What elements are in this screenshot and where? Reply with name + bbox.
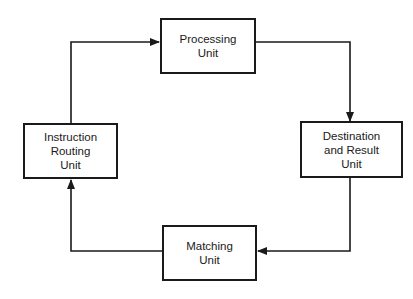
node-label-line: Routing (44, 144, 97, 158)
node-destination-and-result-unit: Destination and Result Unit (300, 121, 403, 178)
node-label-line: Unit (323, 157, 381, 171)
node-label-line: Processing (180, 32, 237, 46)
node-label-line: and Result (323, 143, 381, 157)
node-processing-unit: Processing Unit (160, 18, 256, 74)
edge-instruction-to-processing (71, 42, 159, 123)
node-label-line: Unit (44, 158, 97, 172)
node-label-line: Matching (186, 239, 233, 253)
node-label-line: Unit (180, 46, 237, 60)
edge-processing-to-destination (256, 42, 350, 121)
node-label-line: Unit (186, 253, 233, 267)
node-instruction-routing-unit: Instruction Routing Unit (23, 123, 118, 179)
edge-matching-to-instruction (71, 180, 162, 251)
node-matching-unit: Matching Unit (162, 225, 257, 281)
node-label-line: Destination (323, 129, 381, 143)
node-label-line: Instruction (44, 130, 97, 144)
edge-destination-to-matching (258, 177, 350, 251)
